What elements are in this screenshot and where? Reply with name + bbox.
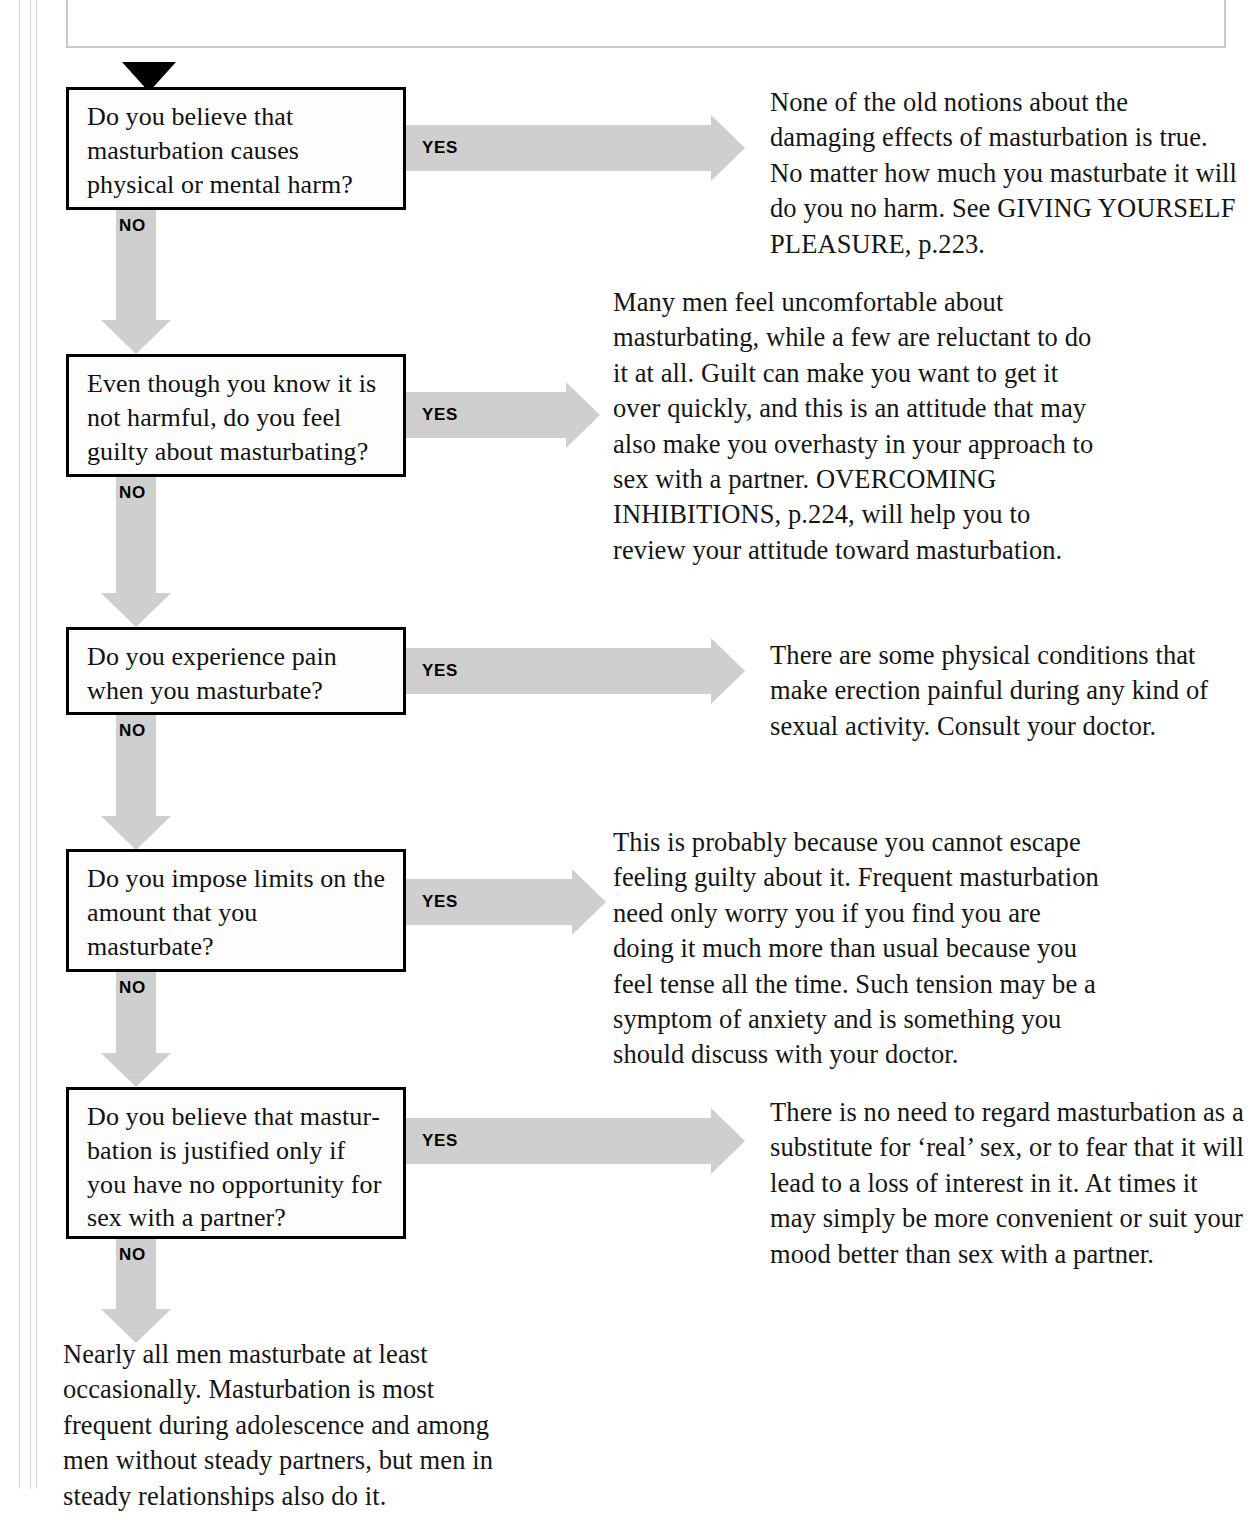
page-edge-rule-1	[19, 0, 20, 1489]
yes-label-3: YES	[422, 661, 458, 681]
yes-label-4: YES	[422, 892, 458, 912]
yes-label-2: YES	[422, 405, 458, 425]
page-edge-rule-2	[30, 0, 31, 1489]
no-arrow-3[interactable]: NO	[116, 715, 156, 850]
answer-text-5: There is no need to regard masturbation …	[770, 1095, 1250, 1272]
no-label-5: NO	[119, 1245, 146, 1265]
yes-arrow-5[interactable]: YES	[406, 1118, 745, 1164]
yes-arrow-1[interactable]: YES	[406, 125, 745, 171]
page-title: MASTURBATION ANXIETY	[68, 0, 1224, 5]
no-label-2: NO	[119, 483, 146, 503]
no-arrow-2[interactable]: NO	[116, 477, 156, 627]
no-label-1: NO	[119, 216, 146, 236]
yes-arrowhead-4	[572, 869, 606, 935]
question-text-3: Do you experience pain when you masturba…	[87, 642, 337, 705]
no-arrowhead-2	[101, 593, 171, 627]
no-arrow-5[interactable]: NO	[116, 1239, 156, 1343]
answer-text-4: This is probably because you cannot esca…	[613, 825, 1103, 1073]
answer-text-1: None of the old notions about the damagi…	[770, 85, 1240, 262]
conclusion-text: Nearly all men masturbate at least occas…	[63, 1337, 518, 1514]
question-box-1[interactable]: Do you believe that masturbation causes …	[66, 87, 406, 210]
yes-arrowhead-2	[566, 382, 600, 448]
no-arrowhead-4	[101, 1053, 171, 1087]
yes-label-5: YES	[422, 1131, 458, 1151]
question-text-4: Do you impose limits on the amount that …	[87, 864, 385, 961]
question-text-5: Do you believe that mastur­bation is jus…	[87, 1102, 381, 1232]
no-label-3: NO	[119, 721, 146, 741]
question-text-2: Even though you know it is not harmful, …	[87, 369, 376, 466]
page-edge-rule-3	[36, 0, 37, 1489]
yes-arrow-2[interactable]: YES	[406, 392, 600, 438]
yes-label-1: YES	[422, 138, 458, 158]
no-arrow-1[interactable]: NO	[116, 210, 156, 354]
no-arrowhead-3	[101, 816, 171, 850]
yes-arrow-4[interactable]: YES	[406, 879, 606, 925]
title-banner: MASTURBATION ANXIETY	[66, 0, 1226, 48]
question-box-2[interactable]: Even though you know it is not harmful, …	[66, 354, 406, 477]
answer-text-3: There are some physical conditions that …	[770, 638, 1240, 744]
no-label-4: NO	[119, 978, 146, 998]
yes-arrowhead-3	[711, 638, 745, 704]
answer-text-2: Many men feel uncomfortable about mastur…	[613, 285, 1103, 568]
question-text-1: Do you believe that masturbation causes …	[87, 102, 353, 199]
no-arrowhead-1	[101, 320, 171, 354]
yes-arrowhead-5	[711, 1108, 745, 1174]
no-arrow-4[interactable]: NO	[116, 972, 156, 1087]
yes-arrowhead-1	[711, 115, 745, 181]
question-box-5[interactable]: Do you believe that mastur­bation is jus…	[66, 1087, 406, 1239]
question-box-4[interactable]: Do you impose limits on the amount that …	[66, 849, 406, 972]
yes-arrow-3[interactable]: YES	[406, 648, 745, 694]
question-box-3[interactable]: Do you experience pain when you masturba…	[66, 627, 406, 715]
